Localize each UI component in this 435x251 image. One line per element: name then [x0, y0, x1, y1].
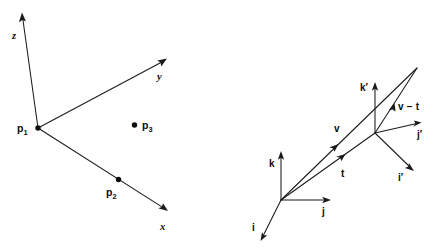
basis-i-prime-arrowhead [405, 163, 414, 171]
point-p3-subscript: 3 [148, 125, 152, 134]
vector-v: v [281, 68, 417, 200]
point-p1-subscript: 1 [23, 128, 27, 137]
basis-k-prime-label: k′ [360, 82, 369, 93]
right-basis-frame: k j i t [252, 68, 423, 241]
point-p2-dot [116, 177, 121, 182]
z-axis-arrowhead [19, 13, 26, 23]
point-p3-dot [132, 122, 137, 127]
x-axis-line [38, 128, 162, 207]
point-p2: p2 [106, 177, 121, 201]
z-axis-line [23, 20, 38, 129]
vector-v-arrowhead [329, 144, 338, 152]
left-coordinate-frame: z y x p1 p2 [11, 13, 168, 233]
basis-i-prime: i′ [375, 133, 414, 183]
vector-t: t [281, 133, 375, 200]
vector-v-minus-t-label: v − t [398, 101, 420, 112]
point-p2-subscript: 2 [112, 192, 116, 201]
x-axis-label: x [159, 221, 165, 232]
point-p3: p3 [132, 119, 153, 134]
vector-v-label: v [334, 123, 340, 134]
basis-i-label: i [252, 222, 255, 233]
basis-i-prime-line [375, 133, 410, 167]
basis-j-label: j [321, 206, 325, 217]
figure-root: z y x p1 p2 [0, 0, 435, 251]
x-axis: x [38, 128, 168, 232]
point-p1-label: p1 [17, 122, 28, 137]
y-axis: y [38, 59, 167, 129]
point-p1-dot [35, 125, 40, 130]
vector-v-line [281, 68, 417, 200]
x-axis-arrowhead [158, 203, 168, 211]
z-axis: z [11, 13, 38, 129]
basis-j-prime-arrowhead [413, 120, 421, 126]
basis-k-label: k [269, 158, 275, 169]
vector-diagram-canvas: z y x p1 p2 [0, 0, 435, 251]
basis-i-prime-label: i′ [398, 172, 404, 183]
basis-i-line [263, 200, 281, 235]
z-axis-label: z [11, 30, 17, 41]
vector-t-label: t [341, 168, 345, 179]
basis-j-prime: j′ [375, 120, 423, 140]
vector-t-line [281, 133, 375, 200]
y-axis-label: y [155, 71, 162, 82]
basis-i: i [252, 200, 281, 241]
basis-k: k [269, 151, 284, 200]
y-axis-arrowhead [157, 59, 167, 67]
basis-j: j [281, 197, 331, 217]
vector-v-minus-t-arrowhead [389, 103, 396, 112]
basis-j-prime-label: j′ [416, 129, 423, 140]
vector-v-minus-t: v − t [375, 68, 420, 133]
basis-k-prime: k′ [360, 82, 378, 133]
basis-j-prime-line [375, 124, 416, 133]
point-p2-label: p2 [106, 186, 117, 201]
point-p3-label: p3 [142, 119, 153, 134]
